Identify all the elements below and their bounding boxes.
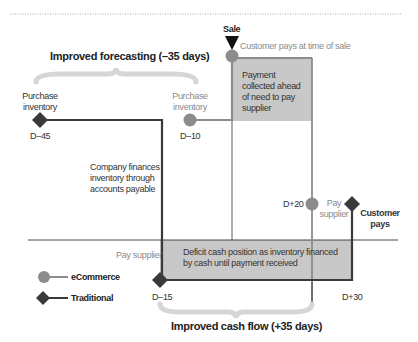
legend-ecommerce-label: eCommerce bbox=[71, 272, 120, 283]
traditional-pay-supplier-label: Pay supplier bbox=[116, 250, 162, 261]
legend-traditional-icon bbox=[36, 291, 50, 305]
cash-flow-diagram: Improved forecasting (–35 days) Improved… bbox=[0, 0, 418, 342]
cash-flow-title: Improved cash flow (+35 days) bbox=[171, 320, 322, 332]
company-finances-note: Company finances inventory through accou… bbox=[90, 162, 160, 195]
traditional-purchase-label: Purchase inventory bbox=[18, 91, 62, 113]
customer-pays-day: D+30 bbox=[342, 292, 363, 303]
ecommerce-pay-supplier-marker bbox=[306, 198, 319, 211]
forecasting-brace bbox=[36, 68, 196, 82]
ecommerce-purchase-day: D–10 bbox=[180, 131, 200, 142]
traditional-purchase-marker bbox=[32, 112, 48, 128]
payment-collected-note: Payment collected ahead of need to pay s… bbox=[242, 70, 308, 114]
ecommerce-pay-supplier-label: Pay supplier bbox=[318, 198, 350, 220]
customer-pays-label: Customer pays bbox=[356, 208, 404, 230]
forecasting-title: Improved forecasting (–35 days) bbox=[50, 50, 209, 62]
sale-circle-marker bbox=[226, 50, 239, 63]
traditional-pay-supplier-day: D–15 bbox=[152, 292, 172, 303]
ecommerce-purchase-marker bbox=[184, 114, 197, 127]
ecommerce-purchase-label: Purchase inventory bbox=[168, 91, 212, 113]
customer-pays-at-sale-label: Customer pays at time of sale bbox=[240, 41, 350, 52]
legend-ecommerce-icon bbox=[38, 271, 50, 283]
traditional-purchase-day: D–45 bbox=[30, 131, 50, 142]
ecommerce-pay-supplier-day: D+20 bbox=[283, 199, 304, 210]
deficit-note: Deficit cash position as inventory finan… bbox=[183, 247, 348, 269]
sale-arrow-icon bbox=[225, 36, 239, 50]
legend-traditional-label: Traditional bbox=[71, 293, 113, 304]
cash-flow-brace bbox=[160, 304, 312, 318]
sale-label: Sale bbox=[223, 24, 240, 35]
